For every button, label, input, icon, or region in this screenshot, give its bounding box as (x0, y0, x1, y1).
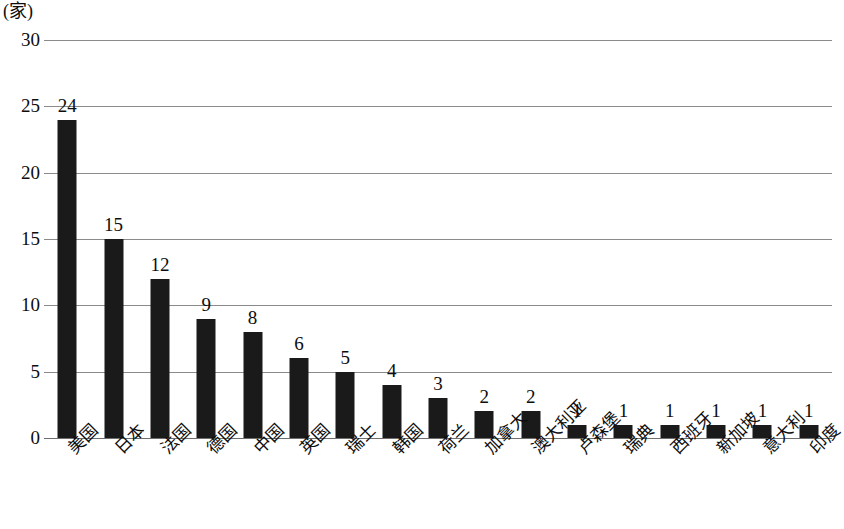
x-label-slot: 瑞士 (322, 441, 368, 529)
x-label-slot: 法国 (137, 441, 183, 529)
bar (428, 398, 447, 438)
bar-group: 1 (647, 40, 693, 438)
bars-layer: 24151298654322111111 (44, 40, 832, 438)
bar-value-label: 5 (341, 348, 351, 367)
bar-value-label: 3 (433, 374, 443, 393)
bar-value-label: 4 (387, 361, 397, 380)
bar-group: 1 (600, 40, 646, 438)
x-label-slot: 新加坡 (693, 441, 739, 529)
bar (150, 279, 169, 438)
bar-group: 1 (693, 40, 739, 438)
x-label-slot: 加拿大 (461, 441, 507, 529)
bar-group: 1 (739, 40, 785, 438)
y-axis-tick-label: 5 (6, 362, 40, 381)
bar-value-label: 1 (665, 401, 675, 420)
y-axis-unit-label: (家) (3, 1, 33, 21)
bar-value-label: 2 (480, 387, 490, 406)
bar (58, 120, 77, 438)
y-axis-tick-label: 25 (6, 96, 40, 115)
bar-group: 12 (137, 40, 183, 438)
bar-value-label: 6 (294, 334, 304, 353)
bar (197, 319, 216, 438)
bar (336, 372, 355, 438)
x-label-slot: 德国 (183, 441, 229, 529)
bar-group: 24 (44, 40, 90, 438)
y-axis-tick-label: 20 (6, 163, 40, 182)
bar (243, 332, 262, 438)
bar-group: 8 (229, 40, 275, 438)
bar-group: 15 (90, 40, 136, 438)
x-label-slot: 意大利 (739, 441, 785, 529)
bar (104, 239, 123, 438)
bar-value-label: 2 (526, 387, 536, 406)
x-label-slot: 日本 (90, 441, 136, 529)
bar-value-label: 1 (804, 401, 814, 420)
y-axis-tick-label: 0 (6, 428, 40, 447)
bar-group: 6 (276, 40, 322, 438)
bar-value-label: 1 (758, 401, 768, 420)
y-axis-tick-label: 15 (6, 229, 40, 248)
bar-group: 4 (368, 40, 414, 438)
x-label-slot: 荷兰 (415, 441, 461, 529)
bar-group: 5 (322, 40, 368, 438)
bar-value-label: 9 (201, 295, 211, 314)
x-label-slot: 英国 (276, 441, 322, 529)
bar (382, 385, 401, 438)
x-label-slot: 印度 (786, 441, 832, 529)
x-label-slot: 澳大利亚 (508, 441, 554, 529)
bar-group: 1 (554, 40, 600, 438)
y-axis-tick-labels: 302520151050 (0, 40, 40, 438)
bar (289, 358, 308, 438)
bar-value-label: 12 (150, 255, 169, 274)
bar-value-label: 24 (58, 96, 77, 115)
bar-value-label: 1 (619, 401, 629, 420)
bar-group: 9 (183, 40, 229, 438)
y-axis-tick-label: 30 (6, 30, 40, 49)
x-label-slot: 瑞典 (600, 441, 646, 529)
x-label-slot: 美国 (44, 441, 90, 529)
bar-group: 2 (508, 40, 554, 438)
x-label-slot: 韩国 (368, 441, 414, 529)
bar-group: 3 (415, 40, 461, 438)
bar-group: 1 (786, 40, 832, 438)
x-label-slot: 卢森堡 (554, 441, 600, 529)
x-axis-category-labels: 美国日本法国德国中国英国瑞士韩国荷兰加拿大澳大利亚卢森堡瑞典西班牙新加坡意大利印… (44, 441, 832, 529)
x-label-slot: 中国 (229, 441, 275, 529)
bar-value-label: 8 (248, 308, 258, 327)
y-axis-tick-label: 10 (6, 295, 40, 314)
x-label-slot: 西班牙 (647, 441, 693, 529)
bar-value-label: 15 (104, 215, 123, 234)
bar-group: 2 (461, 40, 507, 438)
